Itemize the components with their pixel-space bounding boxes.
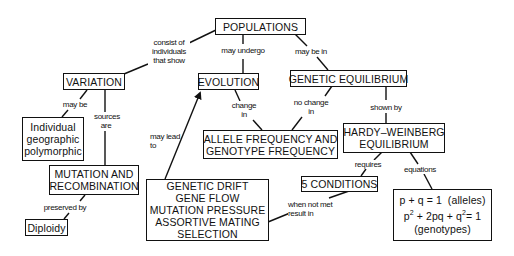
label-line: shown by (369, 103, 403, 112)
equation-genotypes-label: (genotypes) (414, 223, 471, 236)
link-label-when-not-met: when not met result in (288, 200, 334, 218)
node-label: POPULATIONS (223, 21, 298, 33)
label-line: may lead (150, 132, 182, 141)
link-label-shown-by: shown by (369, 103, 403, 112)
node-five-conditions: 5 CONDITIONS (301, 176, 378, 192)
node-label: VARIATION (66, 76, 122, 88)
node-hardy-weinberg: HARDY–WEINBERG EQUILIBRIUM (343, 123, 445, 153)
label-line: in (230, 110, 258, 119)
label-line: that show (148, 56, 190, 65)
node-label: GENETIC EQUILIBRIUM (289, 73, 409, 85)
node-label: HARDY–WEINBERG (343, 126, 444, 138)
node-label: GENE FLOW (176, 192, 240, 204)
link-label-sources-are: sources are (94, 112, 118, 130)
node-label: 5 CONDITIONS (302, 178, 378, 190)
link-label-preserved-by: preserved by (40, 203, 90, 212)
label-line: when not met (288, 200, 334, 209)
node-label: RECOMBINATION (49, 180, 138, 192)
node-label: Individual (30, 121, 75, 133)
node-label: Diploidy (27, 222, 65, 234)
node-label: EVOLUTION (198, 76, 260, 88)
label-line: requires (352, 160, 384, 169)
node-variation-types: Individual geographic polymorphic (22, 117, 84, 161)
label-line: in (293, 107, 329, 116)
link-label-change-in: change in (230, 101, 258, 119)
equation-genotypes: p2 + 2pq + q2= 1 (404, 210, 481, 223)
node-variation: VARIATION (63, 73, 125, 90)
node-label: ASSORTIVE MATING (155, 216, 259, 228)
link-label-requires: requires (352, 160, 384, 169)
link-label-may-lead-to: may lead to (150, 132, 182, 150)
label-line: no change (293, 98, 329, 107)
label-line: change (230, 101, 258, 110)
label-line: result in (288, 209, 334, 218)
node-label: MUTATION PRESSURE (150, 204, 266, 216)
node-allele-frequency: ALLELE FREQUENCY AND GENOTYPE FREQUENCY (203, 130, 338, 159)
label-line: equations (400, 165, 440, 174)
node-label: EQUILIBRIUM (359, 138, 428, 150)
node-mutation-recombination: MUTATION AND RECOMBINATION (49, 165, 139, 195)
node-label: GENOTYPE FREQUENCY (206, 145, 335, 157)
link-label-consist-of: consist of individuals that show (148, 38, 190, 65)
label-line: may be (61, 100, 89, 109)
node-populations: POPULATIONS (215, 18, 306, 35)
link-label-may-undergo: may undergo (219, 46, 267, 55)
node-evolutionary-forces: GENETIC DRIFT GENE FLOW MUTATION PRESSUR… (146, 179, 269, 241)
node-label: SELECTION (177, 228, 237, 240)
node-label: polymorphic (24, 145, 82, 157)
eq-term: + 2pq + q (414, 210, 462, 222)
link-label-may-be: may be (61, 100, 89, 109)
node-equations: p + q = 1 (alleles) p2 + 2pq + q2= 1 (ge… (393, 189, 492, 241)
node-genetic-equilibrium: GENETIC EQUILIBRIUM (290, 70, 407, 87)
link-label-no-change-in: no change in (293, 98, 329, 116)
node-label: MUTATION AND (55, 168, 134, 180)
node-diploidy: Diploidy (25, 219, 68, 236)
link-label-may-be-in: may be in (293, 47, 329, 56)
equation-alleles: p + q = 1 (alleles) (399, 194, 485, 207)
label-line: may undergo (219, 46, 267, 55)
label-line: to (150, 141, 182, 150)
label-line: may be in (293, 47, 329, 56)
label-line: individuals (148, 47, 190, 56)
label-line: are (94, 121, 118, 130)
label-line: preserved by (40, 203, 90, 212)
node-label: geographic (27, 133, 80, 145)
label-line: consist of (148, 38, 190, 47)
label-line: sources (94, 112, 118, 121)
node-label: GENETIC DRIFT (167, 180, 249, 192)
link-label-equations: equations (400, 165, 440, 174)
eq-term: = 1 (466, 210, 481, 222)
node-evolution: EVOLUTION (198, 73, 259, 90)
node-label: ALLELE FREQUENCY AND (204, 133, 338, 145)
